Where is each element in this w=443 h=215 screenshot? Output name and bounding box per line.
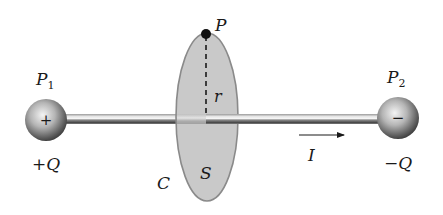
- diagram-canvas: + − P1 P2 +Q −Q P r C S I: [0, 0, 443, 215]
- label-point-p: P: [214, 15, 227, 35]
- point-p-dot: [201, 29, 211, 39]
- label-p2-main: P: [386, 67, 399, 87]
- label-p1: P1: [35, 69, 54, 92]
- wire-behind-disk: [177, 114, 206, 124]
- label-current-i: I: [307, 145, 315, 165]
- label-p1-sub: 1: [47, 79, 54, 92]
- label-surface-s: S: [200, 163, 212, 183]
- label-minus-q: −Q: [384, 153, 412, 173]
- label-radius: r: [214, 87, 223, 106]
- label-plus-q: +Q: [32, 154, 60, 174]
- wire-right: [206, 114, 380, 124]
- label-p2-sub: 2: [398, 77, 405, 90]
- wire-left: [64, 114, 179, 124]
- label-p1-main: P: [35, 69, 48, 89]
- plus-sign-icon: +: [40, 111, 53, 129]
- diagram-svg: + − P1 P2 +Q −Q P r C S I: [0, 0, 443, 215]
- minus-sign-icon: −: [392, 109, 405, 127]
- label-curve-c: C: [157, 173, 170, 193]
- label-p2: P2: [386, 67, 405, 90]
